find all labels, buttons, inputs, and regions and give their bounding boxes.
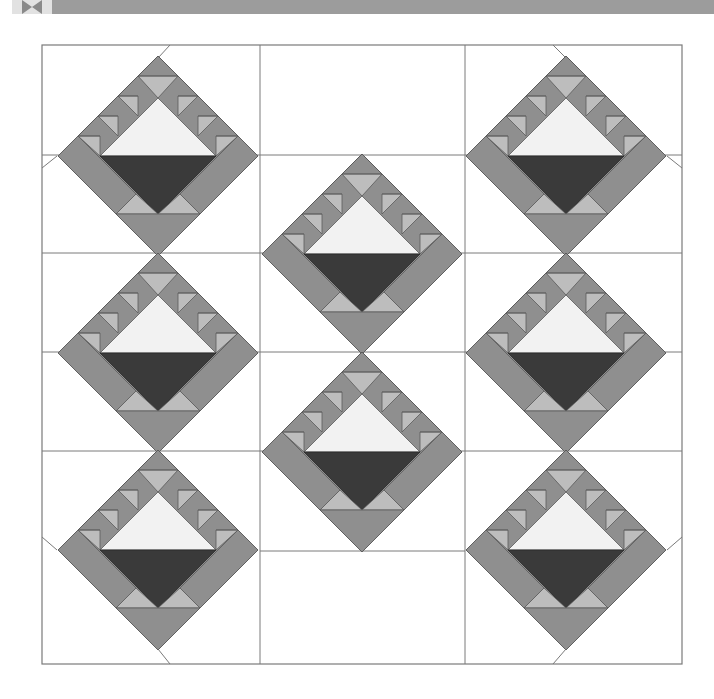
quilt-diagram [0,0,714,699]
